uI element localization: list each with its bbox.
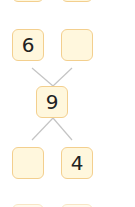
answer-box-top-right[interactable] (61, 29, 93, 61)
number-box-top-left[interactable]: 6 (12, 29, 44, 61)
partial-box-bottom-right[interactable] (61, 204, 93, 207)
answer-box-bottom-left[interactable] (12, 147, 44, 179)
partial-box-bottom-left[interactable] (12, 204, 44, 207)
partial-box-top-right[interactable] (61, 0, 93, 2)
partial-box-top-left[interactable] (12, 0, 44, 2)
whole-number-box[interactable]: 9 (36, 86, 68, 118)
number-box-bottom-right[interactable]: 4 (61, 147, 93, 179)
